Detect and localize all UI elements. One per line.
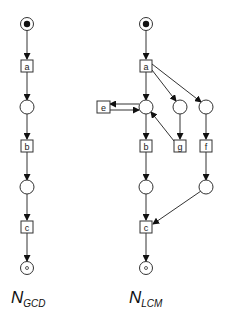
title-main: N: [129, 288, 141, 307]
transition-label: c: [144, 223, 149, 233]
place: [139, 100, 153, 114]
place: [199, 180, 213, 194]
token-icon: [143, 21, 149, 27]
title-main: N: [11, 288, 23, 307]
transition-label: a: [24, 62, 29, 72]
net-title-gcd: NGCD: [11, 288, 46, 308]
arc: [152, 64, 201, 102]
net-title-lcm: NLCM: [129, 288, 162, 308]
arc: [151, 112, 174, 141]
petri-net-diagram: a b c a e b g f c: [0, 0, 226, 321]
title-subscript: GCD: [23, 298, 45, 309]
place: [199, 100, 213, 114]
transition-label: a: [143, 62, 148, 72]
transition-label: c: [25, 223, 30, 233]
place: [173, 100, 187, 114]
title-subscript: LCM: [141, 298, 162, 309]
token-icon: [24, 21, 30, 27]
arc: [153, 191, 201, 224]
transition-label: e: [101, 103, 106, 113]
place: [20, 180, 34, 194]
transition-label: b: [143, 142, 148, 152]
end-place: [21, 262, 34, 275]
end-place: [140, 262, 153, 275]
transition-label: b: [24, 142, 29, 152]
transition-label: g: [177, 142, 182, 152]
arc: [152, 70, 176, 101]
place: [20, 100, 34, 114]
place: [139, 180, 153, 194]
